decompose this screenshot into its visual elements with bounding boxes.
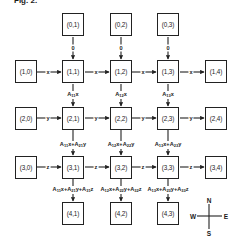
node-3-0: (3,0) bbox=[15, 156, 37, 179]
node-label: (2,2) bbox=[115, 115, 127, 122]
node-2-3: (2,3) bbox=[157, 107, 179, 130]
node-4-2: (4,2) bbox=[110, 202, 132, 225]
node-2-2: (2,2) bbox=[110, 107, 132, 130]
edge-label-z: z bbox=[141, 164, 146, 171]
edge-label-z: z bbox=[189, 164, 194, 171]
node-label: (1,4) bbox=[210, 68, 222, 75]
node-label: (4,1) bbox=[67, 210, 79, 217]
edge-label-z: z bbox=[46, 164, 51, 171]
partial-sum-label: A11x+A21y+A31z bbox=[52, 186, 95, 194]
node-label: (0,3) bbox=[162, 21, 174, 28]
partial-sum-label: A13x+A23y+A33z bbox=[146, 186, 189, 194]
edge-label-top-input: 0 bbox=[118, 45, 123, 52]
partial-sum-label: A11x bbox=[66, 91, 79, 99]
edge-label-z: z bbox=[94, 164, 99, 171]
partial-sum-label: A11x+A21y bbox=[59, 141, 87, 149]
node-1-3: (1,3) bbox=[157, 60, 179, 83]
edge-label-top-input: 0 bbox=[165, 45, 170, 52]
edge-label-x: x bbox=[45, 69, 50, 76]
compass-east: E bbox=[224, 213, 228, 220]
node-1-1: (1,1) bbox=[62, 60, 84, 83]
node-label: (2,1) bbox=[67, 115, 79, 122]
edge-label-y: y bbox=[45, 115, 50, 122]
node-label: (2,3) bbox=[162, 115, 174, 122]
edge-label-x: x bbox=[93, 69, 98, 76]
node-label: (4,2) bbox=[115, 210, 127, 217]
edge-label-y: y bbox=[140, 115, 145, 122]
edge-label-top-input: 0 bbox=[70, 45, 75, 52]
partial-sum-label: A13x bbox=[161, 91, 175, 99]
node-label: (1,3) bbox=[162, 68, 174, 75]
node-0-1: (0,1) bbox=[62, 13, 84, 36]
node-3-4: (3,4) bbox=[205, 156, 227, 179]
node-0-3: (0,3) bbox=[157, 13, 179, 36]
node-label: (2,0) bbox=[20, 115, 32, 122]
node-label: (3,0) bbox=[20, 164, 32, 171]
node-4-1: (4,1) bbox=[62, 202, 84, 225]
node-label: (0,2) bbox=[115, 21, 127, 28]
node-2-1: (2,1) bbox=[62, 107, 84, 130]
node-1-0: (1,0) bbox=[15, 60, 37, 83]
node-label: (4,3) bbox=[162, 210, 174, 217]
node-label: (1,1) bbox=[67, 68, 79, 75]
compass-north: N bbox=[207, 197, 212, 204]
node-2-0: (2,0) bbox=[15, 107, 37, 130]
partial-sum-label: A12x+A22y+A32z bbox=[99, 186, 142, 194]
node-label: (3,4) bbox=[210, 164, 222, 171]
partial-sum-label: A12x+A22y bbox=[107, 141, 136, 149]
compass-south: S bbox=[207, 230, 211, 237]
node-label: (3,2) bbox=[115, 164, 127, 171]
node-2-4: (2,4) bbox=[205, 107, 227, 130]
partial-sum-label: A13x+A23y bbox=[154, 141, 183, 149]
partial-sum-label: A12x bbox=[114, 91, 128, 99]
node-label: (3,3) bbox=[162, 164, 174, 171]
node-3-2: (3,2) bbox=[110, 156, 132, 179]
edge-label-y: y bbox=[188, 115, 193, 122]
node-label: (3,1) bbox=[67, 164, 79, 171]
node-label: (2,4) bbox=[210, 115, 222, 122]
edge-label-x: x bbox=[188, 69, 193, 76]
node-0-2: (0,2) bbox=[110, 13, 132, 36]
node-1-2: (1,2) bbox=[110, 60, 132, 83]
node-label: (1,0) bbox=[20, 68, 32, 75]
edge-label-y: y bbox=[93, 115, 98, 122]
node-label: (0,1) bbox=[67, 21, 79, 28]
node-1-4: (1,4) bbox=[205, 60, 227, 83]
node-label: (1,2) bbox=[115, 68, 127, 75]
edge-label-x: x bbox=[140, 69, 145, 76]
node-3-3: (3,3) bbox=[157, 156, 179, 179]
node-3-1: (3,1) bbox=[62, 156, 84, 179]
compass-west: W bbox=[190, 213, 196, 220]
node-4-3: (4,3) bbox=[157, 202, 179, 225]
